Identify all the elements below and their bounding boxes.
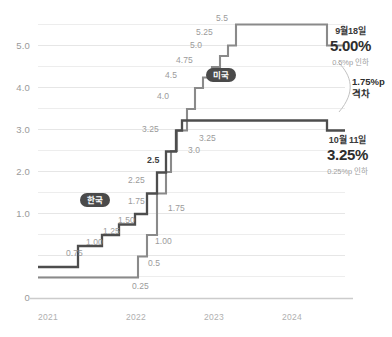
gap-annotation-value: 1.75%p <box>352 76 385 88</box>
y-tick-3: 3.0 <box>4 124 30 135</box>
gap-annotation: 1.75%p 격차 <box>352 76 385 100</box>
usa-point-label-1.00: 1.00 <box>155 236 172 246</box>
usa-point-label-0.5: 0.5 <box>148 258 160 268</box>
korea-callout-date: 10월 11일 <box>327 133 368 146</box>
usa-point-label-4.5: 4.5 <box>165 70 177 80</box>
x-tick-2022: 2022 <box>116 312 156 322</box>
korea-point-label-2.25: 2.25 <box>128 175 145 185</box>
usa-point-label-5.25: 5.25 <box>196 27 213 37</box>
series-badge-korea: 한국 <box>80 193 110 207</box>
korea-point-label-3.25: 3.25 <box>142 124 159 134</box>
usa-point-label-4.75: 4.75 <box>176 55 193 65</box>
usa-callout-value: 5.00% <box>330 37 371 56</box>
usa-callout: 9월18일 5.00% 0.5%p 인하 <box>330 24 371 67</box>
y-tick-2: 2.0 <box>4 166 30 177</box>
usa-point-label-3.0: 3.0 <box>188 145 200 155</box>
usa-point-label-1.75: 1.75 <box>168 203 185 213</box>
korea-point-label-1.75: 1.75 <box>128 196 145 206</box>
korea-callout-value: 3.25% <box>327 146 368 165</box>
usa-callout-note: 0.5%p 인하 <box>330 56 371 67</box>
usa-callout-date: 9월18일 <box>330 24 371 37</box>
korea-point-label-1.25: 1.25 <box>103 226 120 236</box>
x-tick-2021: 2021 <box>28 312 68 322</box>
x-tick-2023: 2023 <box>194 312 234 322</box>
korea-point-label-2.5: 2.5 <box>147 155 160 165</box>
y-tick-0: 0 <box>4 292 30 303</box>
usa-point-label-3.25: 3.25 <box>199 133 216 143</box>
series-badge-usa: 미국 <box>206 68 236 82</box>
y-tick-5: 5.0 <box>4 40 30 51</box>
usa-point-label-5.5: 5.5 <box>216 13 228 23</box>
y-tick-1: 1.0 <box>4 208 30 219</box>
x-tick-2024: 2024 <box>272 312 312 322</box>
interest-rate-step-chart: 5.0 4.0 3.0 2.0 1.0 0 2021 2022 2023 202… <box>0 0 392 337</box>
usa-point-label-4.0: 4.0 <box>157 91 169 101</box>
gap-annotation-label: 격차 <box>352 88 385 100</box>
usa-point-label-0.25: 0.25 <box>132 281 149 291</box>
korea-point-label-1.00: 1.00 <box>86 237 103 247</box>
korea-callout-note: 0.25%p 인하 <box>327 165 368 176</box>
korea-point-label-1.50: 1.50 <box>118 215 135 225</box>
usa-point-label-5.0: 5.0 <box>190 40 202 50</box>
korea-point-label-0.75: 0.75 <box>66 248 83 258</box>
y-tick-4: 4.0 <box>4 82 30 93</box>
korea-callout: 10월 11일 3.25% 0.25%p 인하 <box>327 133 368 176</box>
